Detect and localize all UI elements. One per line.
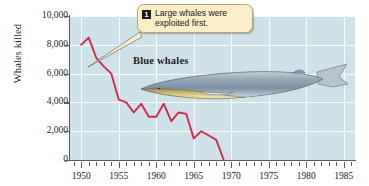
x-tick-mark-minor (126, 162, 127, 166)
x-tick-mark-minor (209, 162, 210, 166)
y-tick-label: 10,000 (22, 10, 68, 20)
x-tick-mark-minor (246, 162, 247, 166)
x-tick-label: 1980 (286, 171, 326, 181)
x-tick-label: 1965 (174, 171, 214, 181)
x-tick-mark-minor (291, 162, 292, 166)
x-tick-mark-minor (141, 162, 142, 166)
x-tick-label: 1985 (324, 171, 364, 181)
x-tick-mark-minor (179, 162, 180, 166)
x-tick-mark-minor (134, 162, 135, 166)
x-tick-mark-minor (96, 162, 97, 166)
x-tick-mark-minor (314, 162, 315, 166)
x-tick-mark-minor (254, 162, 255, 166)
x-tick-mark-major (119, 162, 120, 168)
x-tick-mark-minor (186, 162, 187, 166)
x-tick-mark-minor (171, 162, 172, 166)
x-tick-mark-major (269, 162, 270, 168)
x-tick-mark-minor (329, 162, 330, 166)
callout-annotation-1: 1 Large whales were exploited first. (137, 4, 253, 33)
x-tick-mark-major (194, 162, 195, 168)
y-tick-label: 8,000 (22, 39, 68, 49)
callout-badge: 1 (142, 10, 151, 19)
x-tick-mark-minor (261, 162, 262, 166)
x-tick-label: 1970 (211, 171, 251, 181)
x-tick-mark-minor (239, 162, 240, 166)
whaling-chart-figure: Whales killed 10,0008,0006,0004,0002,000… (0, 0, 369, 186)
x-tick-mark-major (344, 162, 345, 168)
blue-whale-illustration (133, 60, 349, 110)
x-tick-label: 1955 (99, 171, 139, 181)
x-tick-mark-minor (104, 162, 105, 166)
x-axis-ticks: 19501955196019651970197519801985 (0, 162, 369, 182)
y-axis-ticks: 10,0008,0006,0004,0002,0000 (16, 0, 68, 186)
x-tick-mark-minor (336, 162, 337, 166)
x-tick-mark-minor (149, 162, 150, 166)
x-tick-mark-minor (299, 162, 300, 166)
x-tick-mark-minor (111, 162, 112, 166)
callout-text: Large whales were exploited first. (155, 8, 227, 29)
x-tick-mark-major (156, 162, 157, 168)
x-tick-mark-minor (224, 162, 225, 166)
x-tick-mark-minor (89, 162, 90, 166)
callout-leader-line (80, 30, 160, 75)
x-tick-mark-minor (276, 162, 277, 166)
y-tick-label: 2,000 (22, 125, 68, 135)
x-tick-label: 1975 (249, 171, 289, 181)
x-tick-label: 1950 (61, 171, 101, 181)
x-tick-mark-minor (321, 162, 322, 166)
x-tick-mark-minor (216, 162, 217, 166)
x-tick-mark-major (81, 162, 82, 168)
x-tick-mark-minor (351, 162, 352, 166)
y-tick-mark (64, 160, 70, 161)
x-tick-mark-minor (74, 162, 75, 166)
x-tick-mark-major (231, 162, 232, 168)
x-tick-mark-minor (164, 162, 165, 166)
x-tick-label: 1960 (136, 171, 176, 181)
x-tick-mark-minor (201, 162, 202, 166)
x-tick-mark-minor (284, 162, 285, 166)
y-tick-label: 6,000 (22, 68, 68, 78)
y-tick-label: 4,000 (22, 96, 68, 106)
x-tick-mark-major (306, 162, 307, 168)
